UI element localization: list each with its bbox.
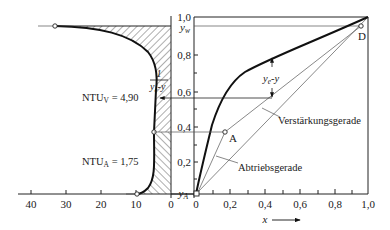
point-d-marker — [359, 24, 363, 28]
x-tick-0-2: 0,2 — [223, 198, 237, 210]
left-x-tick-30: 30 — [61, 198, 73, 210]
x-tick-0-8: 0,8 — [328, 198, 342, 210]
x-tick-0-6: 0,6 — [293, 198, 307, 210]
curve-point-top — [53, 24, 57, 28]
y-tick-0-4: 0,4 — [177, 121, 191, 133]
left-x-tick-0: 0 — [168, 198, 174, 210]
left-x-tick-10: 10 — [131, 198, 143, 210]
stripping-line — [197, 132, 225, 194]
enrichment-line-label: Verstärkungsgerade — [278, 115, 361, 126]
x-tick-0-4: 0,4 — [258, 198, 272, 210]
right-plot: 1,0 0,8 0,6 0,4 0,2 yw yA 0 0,2 0,4 0,6 … — [154, 11, 375, 225]
curve-point-bottom — [135, 192, 139, 196]
left-plot: 40 30 20 10 0 1 ye-y NTUV = 4,90 NTUA = … — [18, 16, 194, 210]
shaded-area-enrichment — [55, 26, 171, 132]
y-tick-0-8: 0,8 — [177, 49, 191, 61]
ntu-a-label: NTUA = 1,75 — [82, 156, 139, 169]
x-axis-label: x — [262, 213, 268, 225]
left-x-ticks — [31, 190, 136, 194]
right-y-ticks — [194, 55, 198, 179]
point-a-marker — [223, 130, 227, 134]
point-d-label: D — [358, 30, 366, 42]
point-a-label: A — [229, 132, 237, 144]
left-x-tick-40: 40 — [26, 198, 38, 210]
origin-marker — [194, 191, 199, 196]
right-x-ticks — [213, 189, 352, 194]
y-w-label: yw — [179, 21, 190, 35]
svg-text:1: 1 — [157, 68, 162, 79]
x-tick-1-0: 1,0 — [361, 198, 375, 210]
y-a-label: yA — [178, 187, 189, 201]
driving-force-label: ye-y — [262, 73, 280, 86]
left-x-tick-20: 20 — [96, 198, 108, 210]
y-tick-0-2: 0,2 — [177, 156, 191, 168]
ntu-v-label: NTUV = 4,90 — [82, 92, 139, 105]
ntu-diagram: 40 30 20 10 0 1 ye-y NTUV = 4,90 NTUA = … — [0, 0, 390, 230]
x-tick-0: 0 — [193, 198, 199, 210]
y-tick-0-6: 0,6 — [177, 86, 191, 98]
stripping-line-label: Abtriebsgerade — [238, 162, 302, 173]
